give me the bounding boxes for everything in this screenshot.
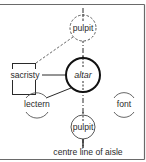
altar-label: altar [74, 70, 93, 80]
font-arc-bottom [114, 112, 134, 117]
font-arc-top [114, 93, 134, 98]
sanctuary-diagram: pulpit sacristy altar lectern font pulpi… [0, 0, 146, 162]
pulpit-lower-label: pulpit [73, 122, 94, 132]
lectern-label: lectern [24, 99, 50, 109]
lectern-arc-bottom [26, 112, 48, 118]
sacristy-label: sacristy [10, 70, 40, 80]
font-label: font [117, 99, 132, 109]
pulpit-upper-label: pulpit [73, 23, 94, 33]
centre-line-label: centre line of aisle [53, 147, 122, 157]
edge-altar-lectern [46, 88, 71, 98]
edge-sacristy-pulpit [36, 37, 73, 63]
